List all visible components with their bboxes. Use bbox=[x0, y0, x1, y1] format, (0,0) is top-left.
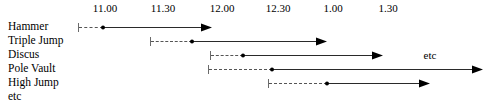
bar-duration-line-0 bbox=[103, 27, 202, 28]
bar-lead-in-dashed-3 bbox=[209, 69, 272, 70]
annotation-etc-0: etc bbox=[424, 49, 437, 61]
axis-tick-label-0: 11.00 bbox=[93, 2, 117, 15]
bar-duration-line-4 bbox=[327, 83, 420, 84]
bar-arrowhead-1 bbox=[316, 37, 327, 45]
event-bar-0 bbox=[78, 22, 212, 33]
bar-duration-line-2 bbox=[243, 55, 373, 56]
event-bar-1 bbox=[150, 36, 327, 47]
bar-arrowhead-0 bbox=[201, 23, 212, 31]
row-label-0: Hammer bbox=[8, 20, 48, 33]
bar-arrowhead-2 bbox=[372, 51, 383, 59]
bar-start-dot-3 bbox=[270, 67, 274, 71]
bar-lead-in-dashed-4 bbox=[269, 83, 327, 84]
event-bar-4 bbox=[268, 78, 430, 89]
axis-tick-label-2: 12.00 bbox=[210, 2, 235, 15]
row-label-1: Triple Jump bbox=[8, 34, 64, 47]
axis-tick-label-1: 11.30 bbox=[151, 2, 175, 15]
axis-tick-label-3: 12.30 bbox=[266, 2, 291, 15]
bar-duration-line-3 bbox=[272, 69, 473, 70]
row-label-4: High Jump bbox=[8, 76, 59, 89]
bar-start-dot-4 bbox=[325, 81, 329, 85]
bar-lead-in-dashed-0 bbox=[79, 27, 103, 28]
time-axis: 11.0011.3012.0012.301.001.30 bbox=[0, 0, 490, 18]
axis-tick-label-4: 1.00 bbox=[323, 2, 342, 15]
bar-arrowhead-4 bbox=[419, 79, 430, 87]
timeline-chart: 11.0011.3012.0012.301.001.30HammerTriple… bbox=[0, 0, 490, 110]
event-bar-2 bbox=[210, 50, 383, 61]
bar-start-dot-2 bbox=[241, 53, 245, 57]
row-label-2: Discus bbox=[8, 48, 39, 61]
row-label-5: etc bbox=[8, 90, 21, 103]
axis-tick-label-5: 1.30 bbox=[378, 2, 397, 15]
bar-arrowhead-3 bbox=[472, 65, 483, 73]
row-label-3: Pole Vault bbox=[8, 62, 55, 75]
bar-start-dot-0 bbox=[101, 25, 105, 29]
bar-lead-in-dashed-2 bbox=[211, 55, 243, 56]
bar-duration-line-1 bbox=[192, 41, 317, 42]
bar-lead-in-dashed-1 bbox=[151, 41, 192, 42]
event-bar-3 bbox=[208, 64, 483, 75]
bar-start-dot-1 bbox=[190, 39, 194, 43]
